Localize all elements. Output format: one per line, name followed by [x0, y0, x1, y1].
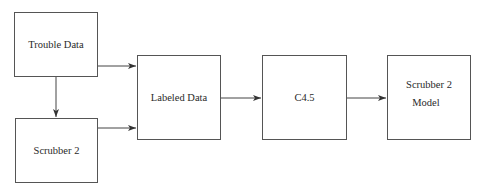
node-label: C4.5 — [294, 91, 314, 105]
node-label: Scrubber 2 — [34, 144, 80, 158]
node-label-line1: Scrubber 2 — [406, 78, 452, 92]
node-labeled-data: Labeled Data — [137, 55, 221, 140]
node-label-line2: Model — [400, 96, 452, 110]
node-scrubber-2: Scrubber 2 — [15, 118, 98, 183]
node-label: Trouble Data — [28, 38, 83, 52]
node-label: Labeled Data — [151, 91, 207, 105]
node-trouble-data: Trouble Data — [14, 12, 98, 77]
node-scrubber-2-model: Scrubber 2 Model — [387, 55, 471, 140]
node-c45: C4.5 — [262, 55, 347, 140]
